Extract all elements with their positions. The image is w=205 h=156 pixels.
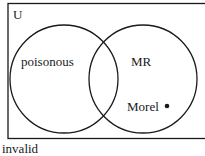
mr-circle (89, 25, 197, 133)
poisonous-label: poisonous (21, 54, 74, 69)
poisonous-circle (10, 25, 118, 133)
venn-diagram: U poisonous MR Morel invalid (0, 0, 205, 156)
morel-dot (165, 104, 170, 109)
mr-label: MR (131, 54, 152, 69)
morel-label: Morel (127, 99, 159, 114)
caption: invalid (2, 141, 39, 156)
universe-label: U (13, 7, 23, 22)
